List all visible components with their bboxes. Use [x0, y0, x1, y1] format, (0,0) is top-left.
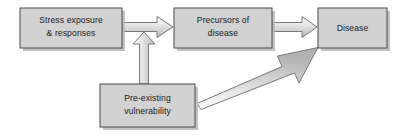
node-pre-existing-vulnerability-line2: vulnerability	[124, 106, 171, 116]
node-disease-line1: Disease	[337, 23, 369, 33]
node-precursors-line2: disease	[208, 28, 238, 38]
node-stress-exposure-line1: Stress exposure	[39, 15, 103, 25]
arrow-vulnerability-to-disease	[197, 48, 318, 110]
node-stress-exposure-line2: & responses	[47, 28, 96, 38]
node-disease[interactable]: Disease	[318, 8, 390, 51]
arrow-precursors-to-disease	[272, 17, 317, 38]
flow-diagram: Stress exposure & responses Precursors o…	[0, 0, 412, 135]
arrow-vulnerability-to-stress-link	[133, 32, 155, 84]
node-pre-existing-vulnerability-line1: Pre-existing	[124, 93, 171, 103]
arrow-stress-to-precursors	[122, 17, 173, 38]
node-precursors[interactable]: Precursors of disease	[174, 8, 275, 51]
diagram-canvas: Stress exposure & responses Precursors o…	[0, 0, 412, 135]
node-pre-existing-vulnerability[interactable]: Pre-existing vulnerability	[100, 84, 198, 130]
node-precursors-line1: Precursors of	[197, 15, 250, 25]
node-stress-exposure[interactable]: Stress exposure & responses	[20, 8, 125, 51]
